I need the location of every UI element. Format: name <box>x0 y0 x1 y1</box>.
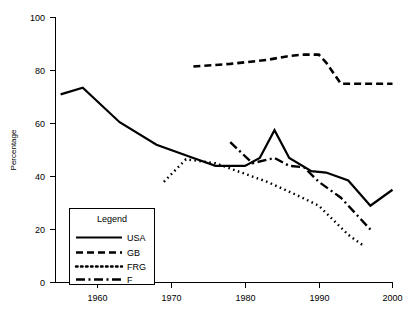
x-tick-label-1960: 1960 <box>87 293 107 303</box>
series-line-f <box>230 142 370 229</box>
legend-label-frg: FRG <box>127 262 146 272</box>
legend: Legend USA GB FRG F <box>70 209 155 286</box>
x-tick-label-1990: 1990 <box>309 293 329 303</box>
y-axis-ticks <box>50 18 55 283</box>
legend-title: Legend <box>97 214 127 224</box>
y-tick-label-100: 100 <box>30 13 45 23</box>
y-tick-label-80: 80 <box>35 66 45 76</box>
legend-label-usa: USA <box>127 233 146 243</box>
y-axis-title: Percentage <box>9 129 18 170</box>
y-tick-label-40: 40 <box>35 172 45 182</box>
series-line-gb <box>193 55 392 84</box>
y-tick-label-60: 60 <box>35 119 45 129</box>
y-tick-label-0: 0 <box>40 278 45 288</box>
y-tick-label-20: 20 <box>35 225 45 235</box>
x-tick-label-1970: 1970 <box>161 293 181 303</box>
line-chart: 100 80 60 40 20 0 1960 1970 1980 1990 20… <box>0 0 415 334</box>
legend-label-gb: GB <box>127 248 140 258</box>
legend-label-f: F <box>127 275 133 285</box>
chart-canvas: 100 80 60 40 20 0 1960 1970 1980 1990 20… <box>0 0 415 334</box>
series-line-frg <box>164 159 363 245</box>
series-line-usa <box>61 88 393 206</box>
x-tick-label-2000: 2000 <box>382 293 402 303</box>
x-tick-label-1980: 1980 <box>235 293 255 303</box>
